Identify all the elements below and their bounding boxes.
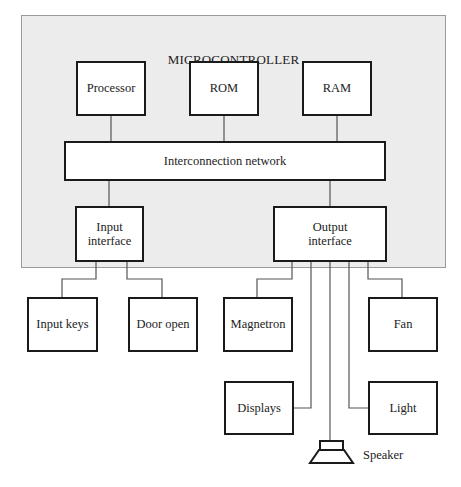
light-label: Light: [389, 401, 416, 415]
input-keys-label: Input keys: [36, 317, 88, 331]
door-open-block: Door open: [128, 297, 198, 352]
ram-label: RAM: [323, 81, 351, 95]
processor-label: Processor: [87, 81, 136, 95]
magnetron-block: Magnetron: [223, 297, 293, 352]
interconnection-network-bar: Interconnection network: [64, 141, 386, 181]
output-interface-block: Output interface: [273, 206, 387, 262]
output-interface-line2: interface: [308, 234, 352, 248]
processor-block: Processor: [76, 61, 146, 116]
rom-label: ROM: [210, 81, 238, 95]
door-open-label: Door open: [136, 317, 189, 331]
ram-block: RAM: [302, 61, 372, 116]
speaker-icon: [310, 441, 353, 463]
speaker-label: Speaker: [363, 448, 403, 463]
light-block: Light: [368, 381, 438, 435]
output-interface-line1: Output: [313, 220, 348, 234]
displays-block: Displays: [224, 381, 294, 435]
fan-label: Fan: [394, 317, 413, 331]
input-interface-block: Input interface: [75, 206, 144, 262]
displays-label: Displays: [237, 401, 281, 415]
magnetron-label: Magnetron: [231, 317, 286, 331]
input-interface-line2: interface: [88, 234, 132, 248]
input-interface-line1: Input: [96, 220, 122, 234]
interconnection-network-label: Interconnection network: [164, 154, 287, 168]
fan-block: Fan: [368, 297, 438, 352]
input-keys-block: Input keys: [27, 297, 98, 352]
rom-block: ROM: [189, 61, 259, 116]
